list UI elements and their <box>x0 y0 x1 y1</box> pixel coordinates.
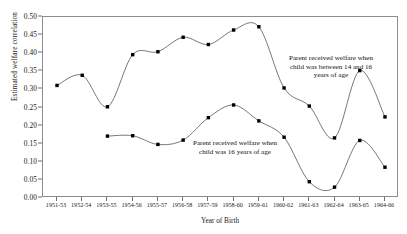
y-axis-title: Estimated welfare correlation <box>10 0 19 132</box>
data-point-marker <box>55 84 58 87</box>
data-point-marker <box>308 104 311 107</box>
y-tick-label: 0.20 <box>24 120 37 129</box>
data-point-marker <box>156 50 159 53</box>
x-tick-label: 1960-62 <box>273 202 293 208</box>
x-tick-label: 1958-60 <box>222 202 242 208</box>
y-tick-label: 0.30 <box>24 84 37 93</box>
data-point-marker <box>131 53 134 56</box>
x-tick-label: 1963-65 <box>349 202 369 208</box>
y-tick-label: 0.50 <box>24 12 37 21</box>
data-point-marker <box>358 139 361 142</box>
data-point-marker <box>156 143 159 146</box>
y-tick-label: 0.35 <box>24 66 37 75</box>
x-tick-label: 1961-63 <box>298 202 318 208</box>
data-point-marker <box>232 103 235 106</box>
x-tick-mark <box>207 197 208 201</box>
x-tick-mark <box>182 197 183 201</box>
y-tick-label: 0.45 <box>24 30 37 39</box>
x-tick-label: 1951-53 <box>46 202 66 208</box>
x-tick-mark <box>258 197 259 201</box>
x-tick-mark <box>283 197 284 201</box>
x-axis: Year of Birth 1951-531952-541953-551954-… <box>42 197 398 234</box>
data-point-marker <box>257 119 260 122</box>
x-tick-label: 1953-55 <box>96 202 116 208</box>
y-tick-label: 0.05 <box>24 174 37 183</box>
data-point-marker <box>333 185 336 188</box>
x-tick-mark <box>359 197 360 201</box>
y-tick-label: 0.25 <box>24 102 37 111</box>
data-point-marker <box>257 25 260 28</box>
x-tick-label: 1954-56 <box>122 202 142 208</box>
x-tick-mark <box>81 197 82 201</box>
series-line-1 <box>57 23 385 139</box>
data-point-marker <box>232 28 235 31</box>
annotation-lower-series: Parent received welfare when child was 1… <box>176 139 294 156</box>
x-tick-label: 1955-57 <box>147 202 167 208</box>
annotation-upper-series: Parent received welfare when child was b… <box>268 54 394 80</box>
plot-svg <box>43 17 399 198</box>
x-axis-title: Year of Birth <box>42 216 398 225</box>
data-point-marker <box>333 136 336 139</box>
x-tick-mark <box>384 197 385 201</box>
x-tick-mark <box>157 197 158 201</box>
data-point-marker <box>383 166 386 169</box>
x-tick-label: 1956-58 <box>172 202 192 208</box>
data-point-marker <box>308 180 311 183</box>
chart-container: Estimated welfare correlation 0.000.050.… <box>0 0 407 234</box>
x-tick-mark <box>106 197 107 201</box>
y-tick-label: 0.40 <box>24 48 37 57</box>
data-point-marker <box>181 36 184 39</box>
x-tick-label: 1962-64 <box>323 202 343 208</box>
data-point-marker <box>106 105 109 108</box>
data-point-marker <box>282 86 285 89</box>
x-tick-mark <box>132 197 133 201</box>
x-tick-mark <box>233 197 234 201</box>
data-point-marker <box>207 43 210 46</box>
data-point-marker <box>131 134 134 137</box>
y-tick-label: 0.10 <box>24 156 37 165</box>
y-axis: Estimated welfare correlation 0.000.050.… <box>0 0 42 213</box>
x-tick-label: 1959-61 <box>248 202 268 208</box>
plot-area <box>42 16 398 197</box>
x-tick-label: 1957-59 <box>197 202 217 208</box>
x-tick-mark <box>308 197 309 201</box>
x-tick-label: 1952-54 <box>71 202 91 208</box>
x-tick-label: 1964-66 <box>374 202 394 208</box>
data-point-marker <box>106 134 109 137</box>
y-tick-label: 0.15 <box>24 138 37 147</box>
x-tick-mark <box>56 197 57 201</box>
data-point-marker <box>383 115 386 118</box>
data-point-marker <box>207 116 210 119</box>
y-tick-label: 0.00 <box>24 193 37 202</box>
x-tick-mark <box>334 197 335 201</box>
data-point-marker <box>81 74 84 77</box>
